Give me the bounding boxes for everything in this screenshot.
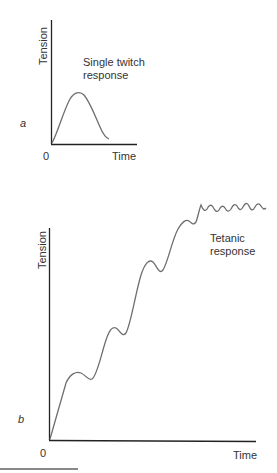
footnote-divider <box>0 468 78 470</box>
panel-b-label: b <box>18 413 24 425</box>
panel-a-caption-line2: response <box>83 69 128 82</box>
panel-b-caption-line1: Tetanic <box>210 232 245 245</box>
panel-a-ylabel: Tension <box>37 27 49 65</box>
panel-b-xlabel: Time <box>233 449 257 462</box>
panel-a-label: a <box>20 117 26 129</box>
panel-b-caption-line2: response <box>210 245 255 258</box>
panel-b-ylabel: Tension <box>36 231 48 269</box>
single-twitch-curve <box>52 93 109 143</box>
panel-a-xlabel: Time <box>112 150 136 163</box>
panel-b-axes <box>49 228 256 442</box>
panel-b-origin: 0 <box>40 447 46 460</box>
panel-a-caption-line1: Single twitch <box>83 56 145 69</box>
panel-a-origin: 0 <box>43 150 49 163</box>
panel-a-axes <box>51 20 137 145</box>
